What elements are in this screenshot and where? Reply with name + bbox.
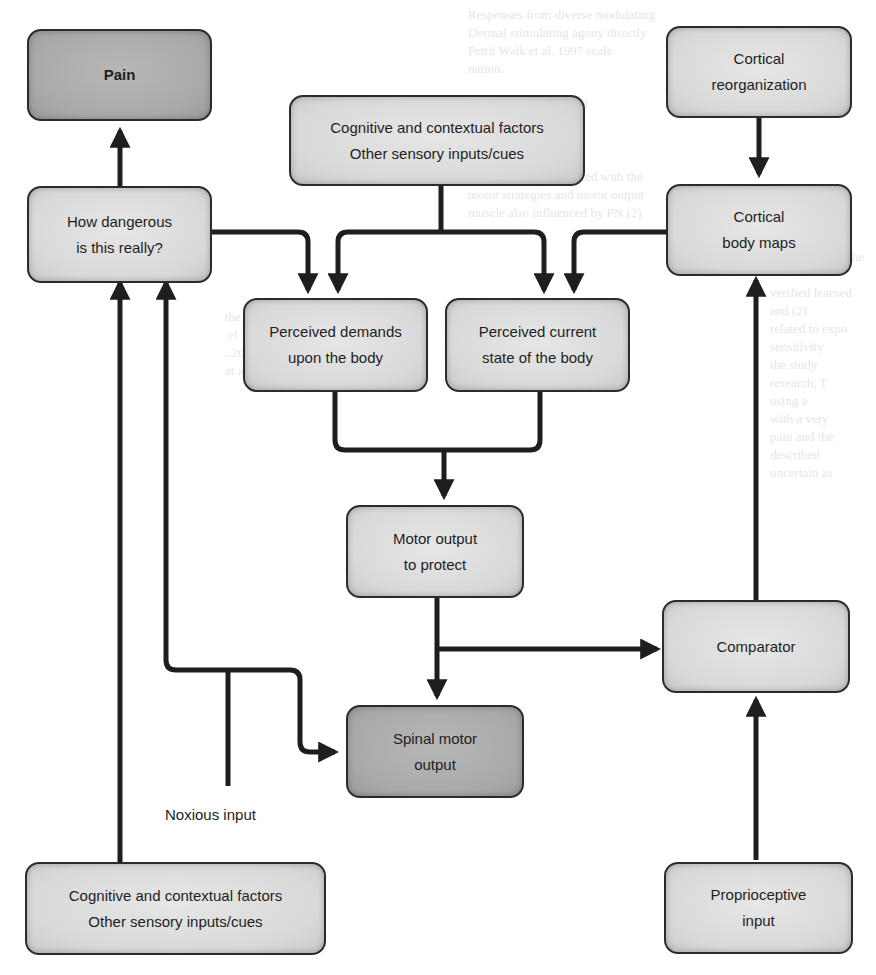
node-perceived-state-line-1: Perceived current <box>479 319 597 345</box>
edge-danger-to-demands <box>210 232 308 290</box>
node-perceived-demands-line-2: upon the body <box>269 345 402 371</box>
node-proprioceptive-input-line-2: input <box>711 908 807 934</box>
node-cortical-body-maps-line-1: Cortical <box>722 204 795 230</box>
node-cortical-body-maps: Cortical body maps <box>666 184 852 276</box>
node-context-bottom-line-1: Cognitive and contextual factors <box>69 883 282 909</box>
node-perceived-demands-line-1: Perceived demands <box>269 319 402 345</box>
node-context-top: Cognitive and contextual factors Other s… <box>289 95 585 186</box>
label-noxious-input: Noxious input <box>165 806 256 823</box>
node-comparator-line-1: Comparator <box>716 634 795 660</box>
node-how-dangerous-line-1: How dangerous <box>67 209 172 235</box>
node-pain: Pain <box>27 29 212 121</box>
edge-noxious-to-danger <box>166 283 228 670</box>
node-context-top-line-1: Cognitive and contextual factors <box>330 115 543 141</box>
edge-context-to-state <box>441 232 544 290</box>
node-comparator: Comparator <box>662 600 850 693</box>
node-spinal-motor-output-line-2: output <box>393 752 477 778</box>
edge-noxious-to-spinal <box>228 670 335 752</box>
node-perceived-state-line-2: state of the body <box>479 345 597 371</box>
node-how-dangerous-line-2: is this really? <box>67 235 172 261</box>
node-cortical-body-maps-line-2: body maps <box>722 230 795 256</box>
node-context-bottom-line-2: Other sensory inputs/cues <box>69 909 282 935</box>
node-pain-line-1: Pain <box>104 62 136 88</box>
node-spinal-motor-output-line-1: Spinal motor <box>393 726 477 752</box>
edge-context-to-demands <box>338 232 441 290</box>
node-perceived-demands: Perceived demands upon the body <box>243 298 428 392</box>
node-cortical-reorganization-line-2: reorganization <box>711 72 806 98</box>
node-context-bottom: Cognitive and contextual factors Other s… <box>25 862 326 955</box>
node-spinal-motor-output: Spinal motor output <box>346 705 524 798</box>
node-cortical-reorganization-line-1: Cortical <box>711 46 806 72</box>
node-motor-output-protect: Motor output to protect <box>346 505 524 598</box>
node-motor-output-protect-line-2: to protect <box>393 552 477 578</box>
node-context-top-line-2: Other sensory inputs/cues <box>330 141 543 167</box>
node-proprioceptive-input-line-1: Proprioceptive <box>711 882 807 908</box>
node-perceived-state: Perceived current state of the body <box>445 298 630 392</box>
edge-demands-to-merge <box>335 392 540 450</box>
node-cortical-reorganization: Cortical reorganization <box>666 26 852 118</box>
edge-bodymaps-to-state <box>574 232 666 290</box>
node-motor-output-protect-line-1: Motor output <box>393 526 477 552</box>
node-proprioceptive-input: Proprioceptive input <box>664 862 853 954</box>
node-how-dangerous: How dangerous is this really? <box>27 186 212 283</box>
